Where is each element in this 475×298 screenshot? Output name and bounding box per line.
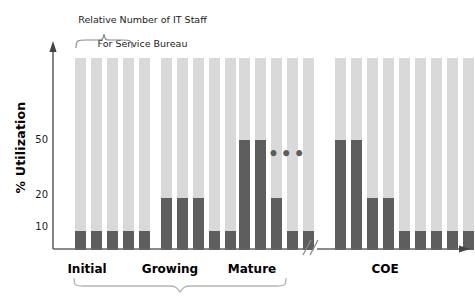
bar: [139, 58, 150, 250]
bar: [193, 58, 204, 250]
bar: [209, 58, 220, 250]
bar-fill: [139, 231, 150, 250]
bar-fill: [399, 231, 410, 250]
bar-fill: [209, 231, 220, 250]
bar-fill: [255, 140, 266, 250]
bar: [335, 58, 346, 250]
bar: [367, 58, 378, 250]
bar: [255, 58, 266, 250]
group-label-initial: Initial: [48, 262, 126, 276]
y-axis-tick-labels: 50 20 10: [20, 0, 48, 298]
bar: [161, 58, 172, 250]
y-tick-10: 10: [22, 221, 48, 232]
bar-fill: [193, 198, 204, 250]
chart-root: Relative Number of IT Staff For Service …: [0, 0, 475, 298]
y-tick-50: 50: [22, 134, 48, 145]
bar: [239, 58, 250, 250]
bar: [75, 58, 86, 250]
bar-fill: [415, 231, 426, 250]
bar-fill: [177, 198, 188, 250]
bar-fill: [75, 231, 86, 250]
bar: [225, 58, 236, 250]
bar-fill: [303, 231, 314, 250]
bar: [351, 58, 362, 250]
bar-fill: [351, 140, 362, 250]
bar: [91, 58, 102, 250]
bar-fill: [161, 198, 172, 250]
y-tick-20: 20: [22, 189, 48, 200]
group-label-coe: COE: [340, 262, 430, 276]
bar: [383, 58, 394, 250]
bar-fill: [463, 231, 474, 250]
bar-fill: [225, 231, 236, 250]
bar-fill: [367, 198, 378, 250]
bar-fill: [287, 231, 298, 250]
bar-fill: [239, 140, 250, 250]
group-label-growing: Growing: [128, 262, 212, 276]
bar: [447, 58, 458, 250]
bar-fill: [107, 231, 118, 250]
bottom-brace-icon: [74, 278, 286, 292]
plot-area: [53, 40, 473, 250]
bar: [399, 58, 410, 250]
bar-fill: [447, 231, 458, 250]
bar-fill: [91, 231, 102, 250]
bar-fill: [383, 198, 394, 250]
bar-fill: [271, 198, 282, 250]
bar: [415, 58, 426, 250]
ellipsis-marker: •••: [268, 150, 307, 158]
bar: [463, 58, 474, 250]
bar-fill: [431, 231, 442, 250]
bar: [177, 58, 188, 250]
bar: [431, 58, 442, 250]
group-label-mature: Mature: [212, 262, 292, 276]
bar-fill: [123, 231, 134, 250]
header-note-line1: Relative Number of IT Staff: [78, 14, 206, 25]
bar: [123, 58, 134, 250]
bar: [107, 58, 118, 250]
bar-fill: [335, 140, 346, 250]
